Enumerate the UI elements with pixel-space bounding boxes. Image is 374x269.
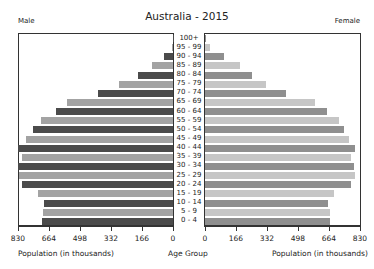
age-group-label: 100+ [173, 34, 205, 43]
female-bar [205, 117, 339, 124]
age-group-label: 25 - 29 [173, 171, 205, 180]
female-bar [205, 126, 344, 133]
female-tick-label: 498 [283, 234, 313, 243]
age-group-label: 0 - 4 [173, 216, 205, 225]
chart-title: Australia - 2015 [0, 10, 374, 22]
female-bar [205, 72, 252, 79]
female-bar [205, 35, 206, 42]
male-bar [164, 53, 173, 60]
female-tick-label: 830 [345, 234, 374, 243]
female-bar [205, 154, 351, 161]
age-group-label: 55 - 59 [173, 116, 205, 125]
age-group-label: 70 - 74 [173, 88, 205, 97]
male-x-axis-title: Population (in thousands) [18, 249, 114, 258]
age-group-label: 20 - 24 [173, 180, 205, 189]
male-bar [22, 154, 173, 161]
age-group-label: 5 - 9 [173, 207, 205, 216]
female-bar [205, 136, 349, 143]
age-group-label: 10 - 14 [173, 198, 205, 207]
age-group-label: 60 - 64 [173, 107, 205, 116]
female-label: Female [335, 17, 360, 25]
female-bar [205, 62, 240, 69]
age-group-label: 85 - 89 [173, 61, 205, 70]
female-bar [205, 53, 224, 60]
age-group-label: 65 - 69 [173, 97, 205, 106]
age-group-label: 30 - 34 [173, 161, 205, 170]
female-tick-label: 332 [252, 234, 282, 243]
male-bar [44, 200, 173, 207]
male-bar [41, 117, 173, 124]
age-group-label: 35 - 39 [173, 152, 205, 161]
female-bar [205, 200, 328, 207]
male-tick-label: 498 [65, 234, 95, 243]
male-label: Male [18, 17, 35, 25]
male-tick-label: 830 [3, 234, 33, 243]
female-bar [205, 145, 355, 152]
male-bar [138, 72, 173, 79]
female-bar [205, 181, 351, 188]
male-bar [22, 181, 173, 188]
female-tick-label: 664 [314, 234, 344, 243]
male-x-axis-line [18, 226, 174, 227]
female-tick-label: 166 [221, 234, 251, 243]
male-bar [152, 62, 173, 69]
age-group-label: 45 - 49 [173, 134, 205, 143]
female-bar [205, 218, 330, 225]
female-bar [205, 81, 266, 88]
female-bar [205, 209, 330, 216]
female-tick-label: 0 [190, 234, 220, 243]
male-bar [26, 136, 173, 143]
male-bar [119, 81, 173, 88]
male-bar [56, 108, 173, 115]
female-bar [205, 190, 334, 197]
male-bar [43, 209, 173, 216]
male-tick-label: 166 [127, 234, 157, 243]
male-bar [18, 163, 173, 170]
male-tick-label: 332 [96, 234, 126, 243]
male-bar [19, 172, 173, 179]
female-bar [205, 44, 210, 51]
age-group-label: 15 - 19 [173, 189, 205, 198]
male-tick-label: 0 [158, 234, 188, 243]
age-group-label: 75 - 79 [173, 79, 205, 88]
age-group-axis-title: Age Group [168, 249, 208, 258]
female-x-axis-title: Population (in thousands) [272, 249, 368, 258]
age-group-label: 40 - 44 [173, 143, 205, 152]
age-group-label: 95 - 99 [173, 43, 205, 52]
female-bar [205, 172, 355, 179]
male-bar [38, 190, 173, 197]
age-group-label: 90 - 94 [173, 52, 205, 61]
female-bar [205, 163, 354, 170]
male-bar [67, 99, 173, 106]
male-bar [33, 126, 173, 133]
female-x-axis-line [204, 226, 361, 227]
male-bar [42, 218, 173, 225]
female-bar [205, 108, 327, 115]
age-group-label: 80 - 84 [173, 70, 205, 79]
female-bar [205, 90, 286, 97]
female-bar [205, 99, 315, 106]
age-group-label: 50 - 54 [173, 125, 205, 134]
male-bar [18, 145, 173, 152]
male-tick-label: 664 [34, 234, 64, 243]
male-bar [98, 90, 173, 97]
